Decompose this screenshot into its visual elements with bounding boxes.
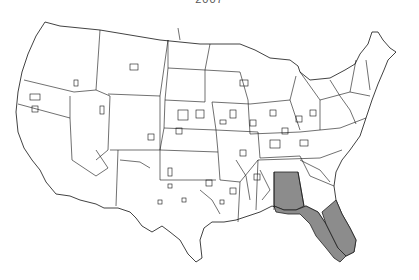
us-map — [0, 0, 419, 280]
